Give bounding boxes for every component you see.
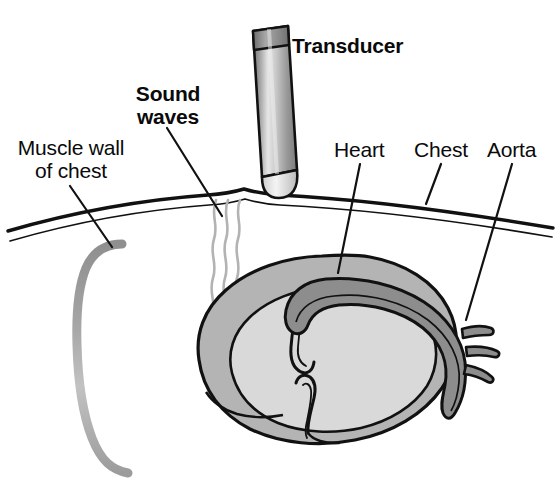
diagram-artwork — [0, 0, 560, 481]
label-muscle-wall-line1: Muscle wall — [18, 136, 124, 159]
label-sound-waves-line2: waves — [137, 105, 199, 128]
label-sound-waves: Soundwaves — [118, 82, 218, 128]
label-muscle-wall-of-chest: Muscle wallof chest — [4, 136, 138, 182]
muscle-wall-of-chest-shape — [77, 244, 128, 473]
leader-sound-waves — [167, 128, 222, 216]
label-sound-waves-line1: Sound — [136, 82, 200, 105]
label-heart: Heart — [334, 138, 384, 161]
label-muscle-wall-line2: of chest — [35, 159, 107, 182]
aorta-branch-vessels — [462, 326, 499, 382]
label-chest: Chest — [414, 138, 468, 161]
leader-muscle-wall — [70, 186, 112, 247]
label-transducer: Transducer — [292, 34, 403, 57]
echocardiogram-diagram: Muscle wallof chest Soundwaves Transduce… — [0, 0, 560, 481]
leader-chest — [426, 164, 441, 204]
ultrasound-transducer-probe — [253, 26, 297, 198]
leader-aorta — [466, 164, 512, 320]
label-aorta: Aorta — [487, 138, 536, 161]
